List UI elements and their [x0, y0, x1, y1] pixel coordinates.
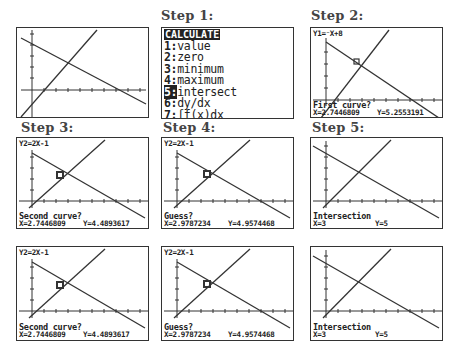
line-y2 [174, 140, 250, 208]
graph-screen-step2: Y1=⁻X+8 First curve? X=2.7446809 Y=5.255… [310, 27, 443, 118]
calculate-menu: CALCULATE 1:value 2:zero 3:minimum 4:max… [161, 27, 294, 119]
graph-screen-step3: Y2=2X-1 Second curve? X=2.7446809 Y=4.48… [16, 137, 149, 229]
x-value: X=3 [313, 220, 326, 228]
x-value: X=3 [313, 331, 326, 339]
y-value: Y=4.9574468 [228, 220, 274, 228]
y-value: Y=5.2553191 [377, 109, 423, 117]
line-y1 [313, 146, 439, 218]
step-1-label: Step 1: [161, 8, 214, 23]
equation-label: Y2=2X-1 [19, 140, 49, 148]
graph-screen-initial [16, 27, 149, 118]
line-y2 [174, 249, 250, 318]
line-y1 [32, 262, 145, 328]
equation-label: Y2=2X-1 [164, 140, 194, 148]
line-y1 [177, 262, 290, 328]
trace-cursor [204, 281, 210, 287]
trace-cursor [57, 172, 63, 178]
step-5-label: Step 5: [312, 120, 365, 135]
y-value: Y=4.4893617 [83, 220, 129, 228]
equation-label: Y2=2X-1 [164, 249, 194, 257]
equation-label: Y2=2X-1 [19, 249, 49, 257]
graph-screen-step5-copy: Intersection X=3 Y=5 [310, 246, 443, 341]
graph-screen-step4-copy: Y2=2X-1 Guess? X=2.9787234 Y=4.9574468 [161, 246, 294, 341]
graph-screen-step3-copy: Y2=2X-1 Second curve? X=2.7446809 Y=4.48… [16, 246, 149, 341]
line-y2 [323, 140, 391, 208]
step-4-label: Step 4: [163, 120, 216, 135]
x-value: X=2.9787234 [164, 220, 210, 228]
line-y2 [29, 140, 105, 208]
menu-item-integral[interactable]: 7:∫f(x)dx [164, 110, 291, 120]
x-value: X=2.7446809 [313, 109, 359, 117]
line-y1 [313, 256, 439, 328]
equation-label: Y1=⁻X+8 [313, 30, 343, 38]
y-value: Y=4.4893617 [83, 331, 129, 339]
trace-cursor [204, 171, 210, 177]
graph-plot [17, 28, 149, 118]
y-value: Y=5 [375, 220, 388, 228]
line-y1 [32, 153, 145, 218]
graph-screen-step4: Y2=2X-1 Guess? X=2.9787234 Y=4.9574468 [161, 137, 294, 229]
y-value: Y=4.9574468 [228, 331, 274, 339]
trace-cursor [57, 282, 63, 288]
line-y1 [177, 153, 290, 218]
graph-screen-step5: Intersection X=3 Y=5 [310, 137, 443, 229]
line-y2 [29, 249, 105, 318]
step-3-label: Step 3: [21, 120, 74, 135]
y-value: Y=5 [375, 331, 388, 339]
line-y1 [21, 38, 146, 104]
step-2-label: Step 2: [311, 8, 364, 23]
x-value: X=2.7446809 [19, 331, 65, 339]
x-value: X=2.9787234 [164, 331, 210, 339]
x-value: X=2.7446809 [19, 220, 65, 228]
line-y2 [323, 249, 391, 318]
